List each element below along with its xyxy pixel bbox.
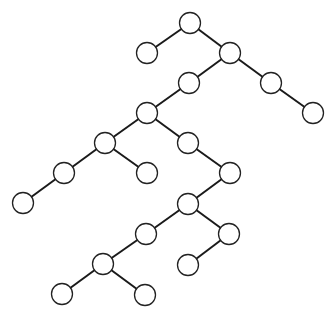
tree-node-O [136, 224, 157, 245]
tree-node-K [137, 163, 158, 184]
node-circle [13, 193, 34, 214]
tree-node-R [178, 255, 199, 276]
tree-node-C [220, 43, 241, 64]
node-circle [54, 163, 75, 184]
node-circle [180, 13, 201, 34]
node-circle [303, 103, 324, 124]
node-circle [178, 133, 199, 154]
tree-node-M [13, 193, 34, 214]
tree-node-F [303, 103, 324, 124]
tree-node-D [179, 73, 200, 94]
tree-node-N [178, 194, 199, 215]
node-circle [219, 224, 240, 245]
tree-node-P [219, 224, 240, 245]
tree-node-T [135, 285, 156, 306]
tree-node-J [54, 163, 75, 184]
node-circle [179, 73, 200, 94]
node-circle [220, 163, 241, 184]
node-circle [137, 103, 158, 124]
tree-node-Q [93, 254, 114, 275]
tree-node-A [180, 13, 201, 34]
node-circle [137, 163, 158, 184]
node-circle [178, 194, 199, 215]
tree-node-E [261, 73, 282, 94]
tree-node-G [137, 103, 158, 124]
node-circle [52, 284, 73, 305]
node-circle [95, 133, 116, 154]
node-circle [220, 43, 241, 64]
tree-node-I [178, 133, 199, 154]
node-circle [261, 73, 282, 94]
node-circle [178, 255, 199, 276]
tree-node-H [95, 133, 116, 154]
tree-node-S [52, 284, 73, 305]
node-circle [135, 285, 156, 306]
node-circle [137, 43, 158, 64]
node-circle [93, 254, 114, 275]
node-circle [136, 224, 157, 245]
tree-node-B [137, 43, 158, 64]
edges-layer [23, 23, 313, 295]
nodes-layer [13, 13, 324, 306]
binary-tree-diagram [0, 0, 335, 318]
tree-node-L [220, 163, 241, 184]
